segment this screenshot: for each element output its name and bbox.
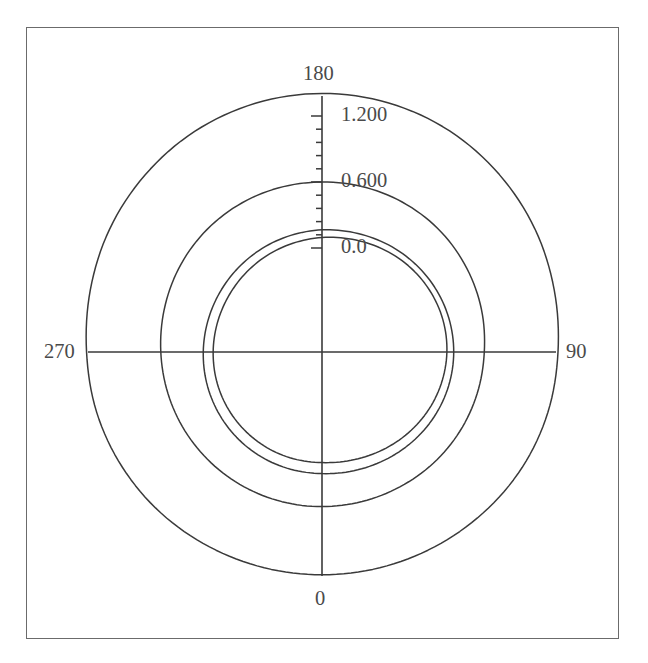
- angular-label-90: 90: [566, 341, 587, 362]
- angular-label-270: 270: [44, 341, 75, 362]
- polar-plot-canvas: [0, 0, 648, 663]
- angular-label-0: 0: [315, 588, 325, 609]
- polar-chart-figure: 180 0 90 270 1.200 0.600 0.0: [0, 0, 648, 663]
- radial-tick-label-0600: 0.600: [341, 170, 387, 191]
- data-curve-inner-curve-b: [213, 237, 447, 462]
- polar-axes: [88, 96, 556, 576]
- radial-tick-label-00: 0.0: [341, 236, 367, 257]
- angular-label-180: 180: [303, 63, 334, 84]
- radial-tick-label-1200: 1.200: [341, 104, 387, 125]
